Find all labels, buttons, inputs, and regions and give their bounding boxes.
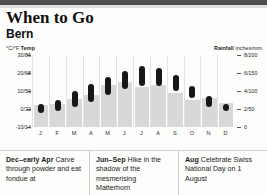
climate-chart: 30/8620/6810/500/32-10/14 8/2006/1504/10… <box>0 52 267 144</box>
seasonal-tip-season: Dec–early Apr <box>6 156 53 164</box>
rainfall-bar <box>135 87 150 127</box>
temperature-range-bar <box>139 66 145 86</box>
y-axis-right-tick-mark <box>237 91 241 92</box>
temperature-range-bar <box>55 100 61 111</box>
y-axis-right-tick-label: 8/200 <box>244 52 257 58</box>
destination-name: Bern <box>6 28 33 41</box>
temperature-legend: °C/°F Temp <box>6 45 35 51</box>
rainfall-bar <box>151 85 166 127</box>
x-axis-month-label: D <box>217 130 234 136</box>
y-axis-right-tick-mark <box>237 55 241 56</box>
rainfall-bar <box>168 93 183 127</box>
x-axis-month-label: J <box>116 130 133 136</box>
chart-column <box>200 55 217 127</box>
seasonal-tips: Dec–early Apr Carve through powder and e… <box>0 150 267 195</box>
rainfall-legend: Rainfall inches/mm <box>214 45 262 51</box>
y-axis-left-tick-mark <box>27 55 31 56</box>
chart-column <box>150 55 167 127</box>
y-axis-right-tick-label: 2/50 <box>244 106 255 112</box>
x-axis-month-labels: JFMAMJJASOND <box>32 130 234 140</box>
x-axis-month-label: F <box>49 130 66 136</box>
x-axis-month-label: A <box>83 130 100 136</box>
rainfall-legend-label: Rainfall <box>214 45 234 51</box>
x-axis-month-label: A <box>150 130 167 136</box>
when-to-go-panel: When to Go Bern °C/°F Temp Rainfall inch… <box>0 0 267 195</box>
chart-column <box>32 55 49 127</box>
y-axis-right-tick-mark <box>237 127 241 128</box>
chart-column <box>133 55 150 127</box>
y-axis-left-tick-mark <box>27 109 31 110</box>
x-axis-month-label: M <box>99 130 116 136</box>
x-axis-month-label: M <box>66 130 83 136</box>
temperature-range-bar <box>173 75 179 91</box>
chart-column <box>66 55 83 127</box>
temperature-unit-label: °C/°F <box>6 45 21 51</box>
x-axis-month-label: S <box>167 130 184 136</box>
y-axis-left-tick-mark <box>27 127 31 128</box>
chart-column <box>49 55 66 127</box>
x-axis-month-label: N <box>200 130 217 136</box>
temperature-range-bar <box>189 86 195 99</box>
seasonal-tip-season: Jun–Sep <box>96 156 126 164</box>
rainfall-bar <box>185 100 200 127</box>
temperature-range-bar <box>38 104 44 113</box>
y-axis-right-tick-mark <box>237 73 241 74</box>
y-axis-right-tick-label: 6/150 <box>244 70 257 76</box>
chart-column <box>83 55 100 127</box>
chart-column <box>184 55 201 127</box>
rainfall-bar <box>118 82 133 127</box>
chart-column <box>99 55 116 127</box>
temperature-range-bar <box>156 68 162 86</box>
chart-column <box>116 55 133 127</box>
page-title: When to Go <box>6 9 94 27</box>
y-axis-right-tick-mark <box>237 109 241 110</box>
x-axis-month-label: J <box>32 130 49 136</box>
temperature-legend-label: Temp <box>21 45 35 51</box>
temperature-range-bar <box>223 104 229 111</box>
temperature-range-bar <box>105 77 111 95</box>
y-axis-right-tick-label: 4/100 <box>244 88 257 94</box>
seasonal-tip-season: Aug <box>185 156 199 164</box>
chart-column <box>167 55 184 127</box>
x-axis-month-label: J <box>133 130 150 136</box>
y-axis-left-tick-mark <box>27 73 31 74</box>
chart-plot-area <box>32 55 234 127</box>
y-axis-right-tick-label: 0 <box>244 124 247 130</box>
seasonal-tip: Dec–early Apr Carve through powder and e… <box>0 151 89 195</box>
seasonal-tip: Jun–Sep Hike in the shadow of the mesmer… <box>89 151 178 195</box>
x-axis-month-label: O <box>184 130 201 136</box>
y-axis-left-tick-mark <box>27 91 31 92</box>
seasonal-tip: Aug Celebrate Swiss National Day on 1 Au… <box>178 151 267 195</box>
temperature-range-bar <box>122 71 128 89</box>
rainfall-unit-label: inches/mm <box>234 45 262 51</box>
temperature-range-bar <box>72 91 78 107</box>
temperature-range-bar <box>206 96 212 107</box>
chart-column <box>217 55 234 127</box>
temperature-range-bar <box>88 84 94 102</box>
